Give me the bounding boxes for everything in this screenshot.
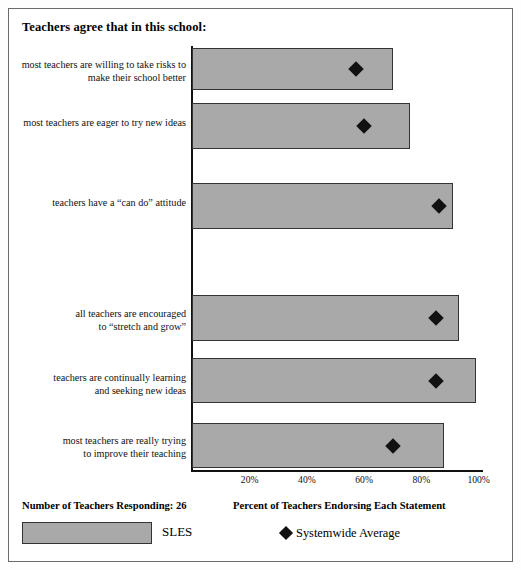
legend-marker-label: Systemwide Average: [296, 526, 400, 541]
x-tick-label: 20%: [230, 474, 270, 485]
category-label: all teachers are encouragedto “stretch a…: [18, 307, 186, 333]
x-tick-label: 60%: [344, 474, 384, 485]
x-axis-title: Percent of Teachers Endorsing Each State…: [233, 500, 446, 511]
category-label: most teachers are really tryingto improv…: [18, 434, 186, 460]
legend-bar-label: SLES: [162, 524, 192, 540]
x-tick-label: 40%: [287, 474, 327, 485]
x-tick-label: 80%: [401, 474, 441, 485]
category-label-line: teachers are continually learning: [18, 371, 186, 384]
x-tick-label: 100%: [459, 474, 499, 485]
category-label-line: teachers have a “can do” attitude: [18, 196, 186, 209]
legend-bar-swatch: [22, 522, 152, 544]
category-label-line: most teachers are really trying: [18, 434, 186, 447]
chart-page: Teachers agree that in this school: most…: [0, 0, 521, 570]
category-label-line: and seeking new ideas: [18, 384, 186, 397]
category-label-line: make their school better: [18, 71, 186, 84]
category-label-line: to improve their teaching: [18, 447, 186, 460]
page-title: Teachers agree that in this school:: [22, 20, 206, 35]
category-label-line: most teachers are eager to try new ideas: [18, 116, 186, 129]
category-label-line: most teachers are willing to take risks …: [18, 58, 186, 71]
respondents-label: Number of Teachers Responding: 26: [22, 500, 187, 511]
category-label-line: all teachers are encouraged: [18, 307, 186, 320]
category-label: most teachers are willing to take risks …: [18, 58, 186, 84]
category-label: most teachers are eager to try new ideas: [18, 116, 186, 129]
category-label-line: to “stretch and grow”: [18, 320, 186, 333]
category-label: teachers are continually learningand see…: [18, 371, 186, 397]
category-label: teachers have a “can do” attitude: [18, 196, 186, 209]
